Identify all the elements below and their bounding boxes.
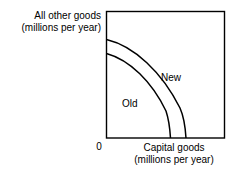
old-curve-label: Old — [122, 98, 138, 109]
new-frontier-curve — [107, 40, 187, 139]
new-curve-label: New — [161, 72, 182, 83]
old-frontier-curve — [107, 54, 171, 139]
plot-area: New Old — [0, 0, 240, 175]
ppf-figure: All other goods (millions per year) 0 Ca… — [0, 0, 240, 175]
